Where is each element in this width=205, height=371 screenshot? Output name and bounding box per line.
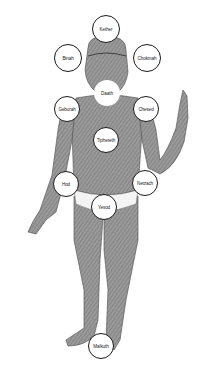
sephirah-label: Kether — [100, 27, 113, 32]
sephirah-label: Chesed — [138, 107, 153, 112]
sephirah-label: Hod — [62, 182, 70, 187]
sephirah-label: Daath — [101, 91, 113, 96]
sephirah-label: Chokmah — [138, 56, 157, 61]
sephirah-label: Malkuth — [93, 344, 108, 349]
sephirah-label: Tiphereth — [97, 138, 115, 143]
sephirah-chokmah: Chokmah — [133, 44, 161, 72]
sephirah-yesod: Yesod — [91, 194, 117, 220]
sephirah-hod: Hod — [53, 171, 79, 197]
sephirah-netzach: Netzach — [132, 170, 158, 196]
sephirah-daath: Daath — [94, 80, 120, 106]
human-figure-illustration — [0, 0, 205, 371]
sephirah-label: Binah — [62, 56, 73, 61]
sephirah-tiphereth: Tiphereth — [93, 127, 119, 153]
sephirah-chesed: Chesed — [133, 96, 159, 122]
sephirah-geburah: Geburah — [54, 96, 80, 122]
diagram-canvas: Kether Binah Chokmah Daath Geburah Chese… — [0, 0, 205, 371]
sephirah-malkuth: Malkuth — [88, 333, 114, 359]
sephirah-binah: Binah — [54, 44, 82, 72]
sephirah-kether: Kether — [92, 15, 120, 43]
sephirah-label: Geburah — [58, 107, 75, 112]
sephirah-label: Netzach — [137, 181, 153, 186]
sephirah-label: Yesod — [98, 205, 110, 210]
